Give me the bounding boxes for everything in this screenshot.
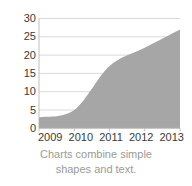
y-tick-label-0: 0 [14, 123, 36, 134]
x-tick-label-2013: 2013 [159, 131, 183, 143]
x-tick-label-2009: 2009 [38, 131, 62, 143]
x-axis-tick-labels: 2009 2010 2011 2012 2013 [38, 131, 184, 147]
y-tick-label-15: 15 [14, 68, 36, 79]
y-tick-label-30: 30 [14, 13, 36, 24]
y-tick-label-5: 5 [14, 105, 36, 116]
plot-area: 30 25 20 15 10 5 0 2009 2010 2011 2012 2… [0, 0, 192, 132]
y-tick-label-25: 25 [14, 31, 36, 42]
caption-line-2: shapes and text. [0, 162, 192, 177]
x-tick-label-2010: 2010 [69, 131, 93, 143]
y-axis-tick-labels: 30 25 20 15 10 5 0 [12, 0, 36, 132]
caption-line-1: Charts combine simple [0, 147, 192, 162]
x-tick-label-2011: 2011 [99, 131, 123, 143]
area-series-fill [39, 29, 180, 128]
x-tick-label-2012: 2012 [129, 131, 153, 143]
chart-caption: Charts combine simple shapes and text. [0, 147, 192, 177]
y-tick-label-10: 10 [14, 86, 36, 97]
y-tick-label-20: 20 [14, 50, 36, 61]
chart-figure: 30 25 20 15 10 5 0 2009 2010 2011 2012 2… [0, 0, 192, 186]
